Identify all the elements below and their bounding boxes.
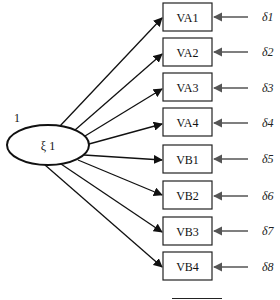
indicator-va4: VA4 δ4 xyxy=(163,108,274,136)
error-label: δ6 xyxy=(262,189,274,203)
indicator-label: VB4 xyxy=(176,260,199,274)
indicators: VA1 δ1 VA2 δ2 VA3 δ3 VA4 δ4 VB1 δ5 xyxy=(163,3,275,280)
indicator-label: VA3 xyxy=(177,81,199,95)
error-label: δ2 xyxy=(262,45,274,59)
indicator-label: VA2 xyxy=(177,46,199,60)
latent-factor: ξ 1 1 xyxy=(7,111,89,165)
indicator-label: VB1 xyxy=(176,153,199,167)
indicator-va2: VA2 δ2 xyxy=(163,38,274,66)
loading-arrow-vb4 xyxy=(45,165,162,267)
indicator-label: VB2 xyxy=(176,189,199,203)
indicator-label: VA4 xyxy=(177,116,199,130)
loading-arrow-vb1 xyxy=(84,155,162,160)
error-label: δ5 xyxy=(262,152,274,166)
latent-label: ξ 1 xyxy=(41,139,55,153)
sem-diagram: ξ 1 1 VA1 δ1 VA2 δ2 VA3 δ3 VA4 δ4 xyxy=(0,0,280,300)
error-label: δ4 xyxy=(262,116,274,130)
indicator-va3: VA3 δ3 xyxy=(163,73,274,101)
loading-arrow-vb2 xyxy=(78,160,162,195)
indicator-vb4: VB4 δ8 xyxy=(163,252,274,280)
indicator-vb1: VB1 δ5 xyxy=(163,145,274,173)
error-label: δ3 xyxy=(262,81,274,95)
error-label: δ1 xyxy=(262,10,274,24)
indicator-label: VA1 xyxy=(177,11,199,25)
indicator-va1: VA1 δ1 xyxy=(163,3,274,31)
error-label: δ8 xyxy=(262,260,274,274)
loading-arrow-va3 xyxy=(85,89,162,136)
loading-arrow-va1 xyxy=(60,18,162,126)
error-label: δ7 xyxy=(262,224,275,238)
indicator-label: VB3 xyxy=(176,225,199,239)
loading-arrow-va2 xyxy=(75,54,162,130)
indicator-vb2: VB2 δ6 xyxy=(163,181,274,209)
latent-variance-label: 1 xyxy=(14,111,20,125)
indicator-vb3: VB3 δ7 xyxy=(163,217,275,245)
